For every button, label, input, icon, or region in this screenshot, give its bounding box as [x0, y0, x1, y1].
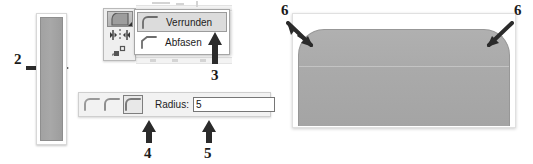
chevron-down-icon[interactable]	[128, 22, 132, 26]
rounded-top-rectangle-result	[298, 29, 510, 126]
radius-label: Radius:	[155, 99, 189, 110]
menu-item-verrunden[interactable]: Verrunden	[137, 12, 227, 32]
callout-arrow-5	[201, 120, 217, 144]
callout-number-6-right: 6	[514, 3, 522, 18]
corner-tools-toolbar	[103, 8, 136, 61]
menu-item-label: Abfasen	[165, 37, 202, 48]
callout-arrow-3	[207, 32, 223, 65]
ghost-toolbar-tick-c	[196, 1, 198, 7]
ghost-toolbar-tick-e	[172, 59, 178, 62]
corner-style-rounded-button[interactable]	[123, 95, 143, 114]
corner-style-sharp-button[interactable]	[83, 95, 101, 114]
ghost-toolbar-tick-d	[150, 59, 156, 62]
callout-arrow-4	[141, 120, 157, 144]
radius-input[interactable]	[193, 97, 275, 112]
chamfer-corner-icon	[139, 34, 159, 50]
callout-number-6-left: 6	[281, 3, 289, 18]
ghost-toolbar-tick-b	[176, 3, 184, 5]
corner-style-chamfer-button[interactable]	[103, 95, 121, 114]
callout-number-3: 3	[211, 68, 219, 83]
callout-arrow-6-right	[486, 21, 514, 48]
callout-arrow-6-left	[286, 21, 314, 48]
fillet-tool-button[interactable]	[107, 11, 133, 27]
rounded-corner-icon	[140, 14, 160, 30]
mirror-tool-button[interactable]	[107, 27, 133, 43]
menu-item-label: Verrunden	[166, 17, 212, 28]
preview-bar-fill	[40, 17, 63, 141]
ghost-toolbar-tick-a	[152, 2, 170, 4]
figure-stage: 2	[0, 0, 533, 164]
ghost-toolbar-tick-f	[200, 59, 206, 62]
callout-number-5: 5	[204, 146, 212, 161]
callout-number-4: 4	[144, 146, 152, 161]
radius-toolbar: Radius:	[78, 92, 271, 117]
callout-number-2: 2	[14, 52, 22, 67]
rounded-rectangle-preview-bar	[36, 13, 67, 145]
rotate-copy-tool-button[interactable]	[107, 43, 133, 59]
